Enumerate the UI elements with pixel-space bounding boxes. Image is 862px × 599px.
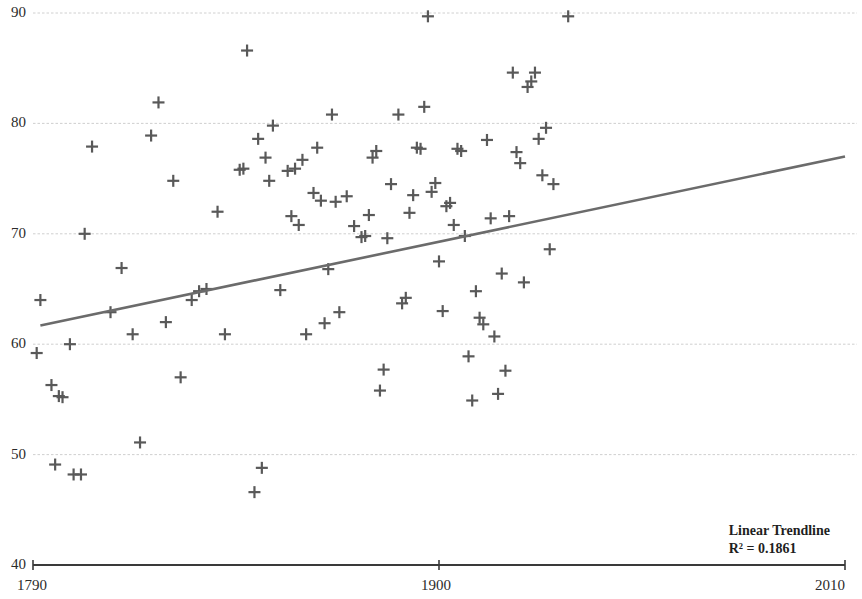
data-point-marker bbox=[374, 385, 386, 397]
data-point-marker bbox=[481, 134, 493, 146]
legend-trendline-label: Linear Trendline bbox=[729, 522, 830, 540]
data-point-marker bbox=[463, 350, 475, 362]
data-point-marker bbox=[470, 285, 482, 297]
data-point-marker bbox=[282, 165, 294, 177]
data-point-marker bbox=[315, 195, 327, 207]
data-point-marker bbox=[433, 255, 445, 267]
data-point-marker bbox=[562, 10, 574, 22]
data-point-marker bbox=[311, 142, 323, 154]
data-point-marker bbox=[160, 316, 172, 328]
data-point-marker bbox=[285, 210, 297, 222]
data-point-marker bbox=[31, 347, 43, 359]
data-point-marker bbox=[241, 45, 253, 57]
data-point-marker bbox=[330, 196, 342, 208]
data-point-marker bbox=[260, 152, 272, 164]
data-point-marker bbox=[308, 187, 320, 199]
linear-trendline bbox=[40, 157, 845, 326]
data-point-marker bbox=[289, 163, 301, 175]
x-tick-label-1790: 1790 bbox=[17, 577, 47, 594]
data-point-marker bbox=[256, 462, 268, 474]
data-point-marker bbox=[274, 284, 286, 296]
data-point-marker bbox=[363, 209, 375, 221]
data-point-marker bbox=[496, 268, 508, 280]
data-point-marker bbox=[300, 328, 312, 340]
data-point-marker bbox=[219, 328, 231, 340]
data-point-marker bbox=[403, 207, 415, 219]
data-point-markers bbox=[31, 10, 574, 498]
data-point-marker bbox=[544, 243, 556, 255]
data-point-marker bbox=[507, 67, 519, 79]
data-point-marker bbox=[503, 210, 515, 222]
data-point-marker bbox=[547, 178, 559, 190]
data-point-marker bbox=[263, 175, 275, 187]
legend-r-squared-value: R² = 0.1861 bbox=[729, 540, 830, 558]
data-point-marker bbox=[518, 276, 530, 288]
gridlines bbox=[33, 13, 857, 455]
y-tick-label-50: 50 bbox=[0, 446, 26, 463]
data-point-marker bbox=[34, 294, 46, 306]
data-point-marker bbox=[248, 486, 260, 498]
data-point-marker bbox=[407, 189, 419, 201]
data-point-marker bbox=[514, 157, 526, 169]
x-axis bbox=[33, 560, 845, 570]
data-point-marker bbox=[134, 436, 146, 448]
y-tick-label-40: 40 bbox=[0, 556, 26, 573]
y-tick-label-60: 60 bbox=[0, 335, 26, 352]
plot-canvas bbox=[0, 0, 862, 599]
data-point-marker bbox=[252, 133, 264, 145]
data-point-marker bbox=[485, 212, 497, 224]
data-point-marker bbox=[293, 219, 305, 231]
data-point-marker bbox=[127, 328, 139, 340]
data-point-marker bbox=[422, 10, 434, 22]
data-point-marker bbox=[152, 96, 164, 108]
data-point-marker bbox=[448, 219, 460, 231]
y-tick-label-80: 80 bbox=[0, 114, 26, 131]
x-tick-label-2010: 2010 bbox=[815, 577, 845, 594]
data-point-marker bbox=[341, 190, 353, 202]
data-point-marker bbox=[267, 120, 279, 132]
x-tick-label-1900: 1900 bbox=[421, 577, 451, 594]
data-point-marker bbox=[378, 364, 390, 376]
data-point-marker bbox=[175, 371, 187, 383]
data-point-marker bbox=[79, 228, 91, 240]
data-point-marker bbox=[75, 468, 87, 480]
data-point-marker bbox=[333, 306, 345, 318]
data-point-marker bbox=[49, 459, 61, 471]
y-tick-label-70: 70 bbox=[0, 225, 26, 242]
data-point-marker bbox=[348, 220, 360, 232]
data-point-marker bbox=[511, 146, 523, 158]
data-point-marker bbox=[418, 101, 430, 113]
data-point-marker bbox=[466, 395, 478, 407]
data-point-marker bbox=[45, 379, 57, 391]
data-point-marker bbox=[64, 338, 76, 350]
data-point-marker bbox=[145, 130, 157, 142]
data-point-marker bbox=[536, 169, 548, 181]
data-point-marker bbox=[499, 365, 511, 377]
data-point-marker bbox=[326, 109, 338, 121]
data-point-marker bbox=[488, 330, 500, 342]
data-point-marker bbox=[392, 109, 404, 121]
data-point-marker bbox=[492, 388, 504, 400]
data-point-marker bbox=[296, 154, 308, 166]
data-point-marker bbox=[437, 305, 449, 317]
data-point-marker bbox=[319, 317, 331, 329]
data-point-marker bbox=[116, 262, 128, 274]
scatter-chart: 405060708090 179019002010 Linear Trendli… bbox=[0, 0, 862, 599]
data-point-marker bbox=[385, 178, 397, 190]
data-point-marker bbox=[167, 175, 179, 187]
trendline-segment bbox=[40, 157, 845, 326]
data-point-marker bbox=[533, 133, 545, 145]
data-point-marker bbox=[381, 232, 393, 244]
y-tick-label-90: 90 bbox=[0, 4, 26, 21]
data-point-marker bbox=[212, 206, 224, 218]
data-point-marker bbox=[86, 141, 98, 153]
trendline-legend: Linear Trendline R² = 0.1861 bbox=[729, 522, 830, 558]
